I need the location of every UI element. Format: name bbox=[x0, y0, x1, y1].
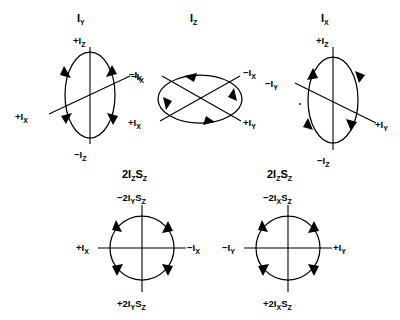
diagram-ix-arrow-upper-right bbox=[355, 71, 365, 83]
diagram-2izsz-left-label-bottom: +2IYSZ bbox=[117, 298, 147, 311]
diagram-2izsz-right: 2IZSZ −2IXSZ +2IXSZ −IY +IY bbox=[222, 168, 346, 311]
diagram-iy-title: IY bbox=[77, 12, 85, 26]
diagram-ix-arrow-upper-left bbox=[307, 68, 318, 80]
diagram-iz-arrow-right bbox=[228, 88, 237, 101]
diagram-iz-title: IZ bbox=[190, 12, 198, 26]
diagram-2izsz-right-arrow-sw bbox=[258, 264, 269, 276]
diagram-ix-label-plus-iy: +IY bbox=[375, 119, 388, 132]
diagram-iy: IY +IZ −IZ −IX +IX bbox=[15, 12, 144, 162]
diagram-2izsz-right-arrow-nw bbox=[258, 220, 268, 232]
diagram-iz-diagonal-axis-x bbox=[160, 76, 240, 121]
diagram-iz: IZ −IY +IY −IX +IX bbox=[128, 12, 256, 130]
diagram-iy-label-top: +IZ bbox=[73, 35, 86, 48]
diagram-ix-stray-dot bbox=[299, 103, 301, 105]
nmr-operator-figure: IY +IZ −IZ −IX +IX IZ bbox=[0, 0, 400, 320]
diagram-canvas: IY +IZ −IZ −IX +IX IZ bbox=[0, 0, 400, 320]
diagram-2izsz-left-label-top: −2IYSZ bbox=[117, 192, 147, 205]
diagram-iz-label-plus-ix: +IX bbox=[128, 117, 141, 130]
diagram-ix: IX +IZ −IZ −IY +IY bbox=[265, 12, 388, 168]
diagram-2izsz-left-arrow-ne bbox=[162, 221, 173, 233]
diagram-ix-title: IX bbox=[321, 12, 329, 26]
diagram-2izsz-left-arrow-sw bbox=[112, 264, 123, 276]
diagram-iz-arrow-bottom bbox=[203, 116, 215, 125]
diagram-2izsz-right-label-right: +IY bbox=[333, 242, 346, 255]
diagram-2izsz-left-label-right: −IX bbox=[187, 242, 200, 255]
diagram-iz-diagonal-axis-y bbox=[162, 76, 241, 121]
diagram-iz-arrow-top bbox=[184, 73, 197, 82]
diagram-iz-label-minus-ix: −IX bbox=[243, 67, 256, 80]
diagram-2izsz-left: 2IZSZ −2IYSZ +2IYSZ +IX −IX bbox=[76, 168, 200, 311]
diagram-2izsz-left-label-left: +IX bbox=[76, 242, 89, 255]
diagram-2izsz-right-label-top: −2IXSZ bbox=[263, 192, 293, 205]
diagram-2izsz-left-arrow-se bbox=[162, 264, 173, 276]
diagram-2izsz-left-title: 2IZSZ bbox=[122, 168, 148, 182]
diagram-iy-arrow-upper-right bbox=[106, 65, 117, 77]
diagram-iz-label-plus-iy: +IY bbox=[243, 117, 256, 130]
diagram-2izsz-right-arrow-se bbox=[308, 264, 319, 276]
diagram-2izsz-left-arrow-nw bbox=[112, 220, 122, 232]
diagram-iz-arrow-left bbox=[163, 97, 172, 110]
diagram-ix-label-top: +IZ bbox=[316, 35, 329, 48]
diagram-iy-label-plus-ix: +IX bbox=[15, 111, 28, 124]
diagram-2izsz-right-title: 2IZSZ bbox=[267, 168, 293, 182]
diagram-2izsz-right-arrow-ne bbox=[308, 221, 319, 233]
diagram-2izsz-right-label-left: −IY bbox=[222, 242, 235, 255]
diagram-2izsz-right-label-bottom: +2IXSZ bbox=[263, 298, 293, 311]
diagram-ix-label-bottom: −IZ bbox=[317, 155, 330, 168]
diagram-ix-arrow-lower-left bbox=[303, 118, 313, 130]
diagram-ix-label-minus-iy: −IY bbox=[265, 78, 278, 91]
diagram-ix-diagonal-axis bbox=[295, 83, 376, 123]
diagram-iy-label-bottom: −IZ bbox=[74, 149, 87, 162]
